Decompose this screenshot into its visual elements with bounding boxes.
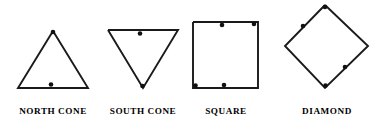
south-cone-outline	[108, 30, 178, 88]
diamond-dot-top	[323, 5, 328, 10]
square-dot-bottom-center	[222, 83, 227, 88]
north-cone-caption: NORTH CONE	[19, 106, 87, 116]
south-cone-dot-top	[138, 31, 143, 36]
south-cone-dot-apex	[140, 84, 145, 89]
shape-group-south-cone: SOUTH CONE	[108, 30, 178, 116]
shape-group-square: SQUARE	[193, 22, 258, 116]
south-cone-caption: SOUTH CONE	[110, 106, 177, 116]
square-dot-top-right	[252, 22, 257, 27]
shape-group-diamond: DIAMOND	[285, 5, 368, 116]
shape-diagram-canvas: NORTH CONE SOUTH CONE SQUARE DIAMOND	[0, 0, 385, 130]
square-dot-top-center	[220, 23, 225, 28]
diamond-outline	[285, 5, 368, 88]
square-caption: SQUARE	[205, 106, 247, 116]
square-dot-bottom-left	[193, 83, 198, 88]
diamond-dot-bottom	[323, 83, 328, 88]
shape-figure: NORTH CONE SOUTH CONE SQUARE DIAMOND	[0, 0, 385, 130]
north-cone-dot-apex	[51, 30, 56, 35]
square-outline	[193, 22, 258, 88]
diamond-dot-upper-left	[301, 24, 306, 29]
diamond-dot-lower-right	[343, 65, 348, 70]
diamond-caption: DIAMOND	[302, 106, 352, 116]
north-cone-dot-base	[49, 82, 54, 87]
north-cone-outline	[18, 31, 88, 88]
shape-group-north-cone: NORTH CONE	[18, 30, 88, 116]
